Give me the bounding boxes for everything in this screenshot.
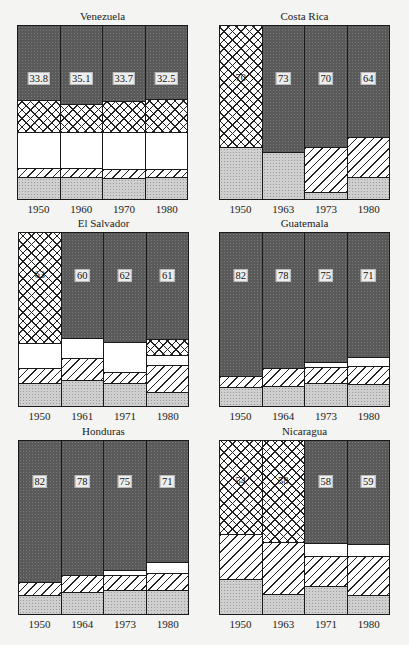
segment-light — [19, 383, 61, 406]
stacked-bar-plot: 54585859 — [219, 440, 390, 615]
bar-1980: 59 — [348, 441, 390, 614]
segment-hatch — [19, 582, 61, 595]
stacked-bar-plot: 33.835.133.732.5 — [17, 25, 188, 200]
value-label: 70 — [235, 72, 248, 83]
value-label: 75 — [118, 475, 133, 488]
panel-title: Venezuela — [17, 10, 188, 22]
bar-1980: 71 — [348, 233, 390, 406]
segment-hatch — [348, 366, 390, 384]
bar-1970: 33.7 — [103, 26, 146, 199]
x-axis-years: 1950196119711980 — [18, 410, 189, 422]
segment-light — [146, 177, 188, 199]
stacked-bar-plot: 63606261 — [18, 232, 189, 407]
segment-dark — [263, 26, 305, 152]
segment-cross — [61, 104, 103, 132]
segment-hatch — [348, 137, 390, 177]
segment-dark — [103, 26, 145, 101]
value-label: 60 — [75, 269, 90, 282]
bar-1963: 73 — [263, 26, 306, 199]
segment-dark — [61, 26, 103, 104]
year-tick-label: 1950 — [219, 618, 262, 630]
value-label: 32.5 — [155, 72, 177, 85]
bar-1950: 54 — [220, 441, 263, 614]
segment-light — [263, 152, 305, 199]
year-tick-label: 1980 — [347, 618, 390, 630]
year-tick-label: 1961 — [61, 410, 104, 422]
year-tick-label: 1980 — [145, 203, 188, 215]
value-label: 82 — [234, 269, 249, 282]
segment-white — [19, 343, 61, 368]
bar-1950: 70 — [220, 26, 263, 199]
segment-dark — [146, 26, 188, 99]
value-label: 61 — [160, 269, 175, 282]
x-axis-years: 1950196419731980 — [219, 410, 390, 422]
year-tick-label: 1964 — [262, 410, 305, 422]
value-label: 73 — [276, 72, 291, 85]
segment-light — [220, 579, 262, 614]
segment-cross — [19, 233, 61, 343]
value-label: 78 — [75, 475, 90, 488]
value-label: 71 — [361, 269, 376, 282]
segment-light — [220, 147, 262, 199]
segment-cross — [147, 339, 189, 355]
segment-white — [305, 543, 347, 556]
panel-title: Costa Rica — [219, 10, 390, 22]
segment-light — [263, 386, 305, 406]
bar-1950: 82 — [19, 441, 62, 614]
bar-1963: 58 — [263, 441, 306, 614]
segment-dark — [263, 233, 305, 368]
bar-1980: 71 — [147, 441, 189, 614]
segment-hatch — [348, 556, 390, 595]
year-tick-label: 1980 — [146, 410, 189, 422]
segment-white — [62, 338, 104, 359]
segment-light — [305, 192, 347, 199]
year-tick-label: 1970 — [103, 203, 146, 215]
bar-1961: 60 — [62, 233, 105, 406]
bar-1950: 63 — [19, 233, 62, 406]
segment-hatch — [220, 534, 262, 579]
year-tick-label: 1950 — [219, 410, 262, 422]
x-axis-years: 1950196419731980 — [18, 618, 189, 630]
segment-hatch — [263, 368, 305, 386]
bar-1973: 75 — [104, 441, 147, 614]
segment-light — [263, 594, 305, 614]
segment-hatch — [104, 575, 146, 590]
value-label: 70 — [319, 72, 334, 85]
segment-light — [18, 177, 60, 199]
segment-hatch — [263, 542, 305, 594]
segment-dark — [147, 441, 189, 562]
year-tick-label: 1950 — [219, 203, 262, 215]
year-tick-label: 1980 — [347, 410, 390, 422]
segment-cross — [263, 441, 305, 542]
segment-dark — [305, 233, 347, 362]
bar-1973: 70 — [305, 26, 348, 199]
segment-light — [348, 595, 390, 614]
segment-light — [19, 595, 61, 614]
segment-hatch — [305, 367, 347, 383]
segment-cross — [103, 101, 145, 132]
year-tick-label: 1973 — [104, 618, 147, 630]
segment-light — [147, 590, 189, 614]
bar-1980: 32.5 — [146, 26, 188, 199]
segment-hatch — [147, 573, 189, 590]
value-label: 58 — [277, 475, 290, 486]
segment-hatch — [220, 376, 262, 387]
value-label: 71 — [160, 475, 175, 488]
segment-hatch — [18, 168, 60, 177]
value-label: 62 — [118, 269, 133, 282]
segment-light — [62, 592, 104, 614]
segment-light — [305, 586, 347, 614]
segment-dark — [104, 441, 146, 570]
segment-white — [146, 132, 188, 170]
segment-light — [220, 387, 262, 406]
year-tick-label: 1963 — [262, 618, 305, 630]
year-tick-label: 1963 — [262, 203, 305, 215]
year-tick-label: 1950 — [17, 203, 60, 215]
segment-white — [348, 544, 390, 556]
segment-dark — [62, 441, 104, 575]
segment-hatch — [305, 147, 347, 192]
segment-dark — [18, 26, 60, 100]
value-label: 59 — [361, 475, 376, 488]
value-label: 82 — [33, 475, 48, 488]
segment-dark — [62, 233, 104, 337]
